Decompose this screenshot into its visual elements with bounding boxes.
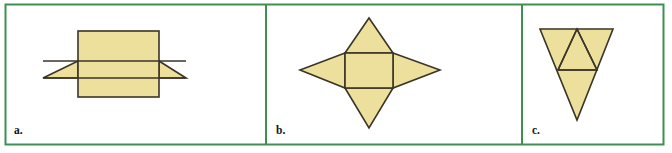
panel-a-label: a. — [14, 124, 23, 136]
geometry-figure: a. b. c. — [0, 0, 672, 153]
figure-canvas: a. b. c. — [0, 0, 672, 153]
b-center-rectangle — [345, 53, 393, 88]
panel-c-label: c. — [532, 124, 540, 136]
a-outer-rectangle — [78, 31, 159, 97]
panel-b-label: b. — [276, 124, 285, 136]
